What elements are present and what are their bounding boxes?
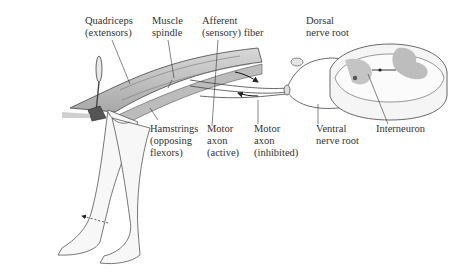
label-muscle-spindle: Muscle spindle <box>152 15 183 39</box>
label-dorsal-root: Dorsal nerve root <box>306 15 349 39</box>
label-motor-axon-inhibited: Motor axon (inhibited) <box>254 123 298 159</box>
label-interneuron: Interneuron <box>376 123 425 135</box>
spinal-cord-cross-section <box>330 44 447 120</box>
efferent-direction-arrow-icon <box>238 93 258 96</box>
label-motor-axon-active: Motor axon (active) <box>207 123 239 159</box>
reflex-hammer-icon <box>62 56 106 121</box>
dorsal-root-ganglion <box>291 58 303 66</box>
reflex-diagram: Quadriceps (extensors) Muscle spindle Af… <box>0 0 456 280</box>
label-quadriceps: Quadriceps (extensors) <box>85 15 133 39</box>
label-afferent-fiber: Afferent (sensory) fiber <box>202 15 264 39</box>
leg-outlines <box>58 110 150 264</box>
nerve-junction <box>284 85 290 95</box>
label-hamstrings: Hamstrings (opposing flexors) <box>150 123 198 159</box>
label-ventral-root: Ventral nerve root <box>316 123 359 147</box>
